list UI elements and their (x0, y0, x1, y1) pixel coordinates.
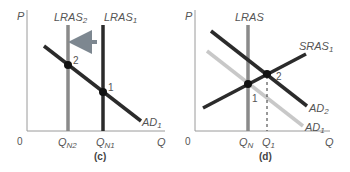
ad1-label: AD1 (141, 116, 162, 130)
diagram-canvas: P 0 Q 2 1 LRAS2 LRAS1 AD1 QN2 QN1 (c) P … (0, 0, 350, 172)
origin-label: 0 (185, 136, 191, 147)
point-label-1: 1 (108, 82, 114, 93)
x-axis-label: Q (157, 136, 166, 148)
x-tick-qn1: QN1 (96, 136, 115, 150)
panel-d: P 0 Q 1 2 LRAS SRAS1 AD2 AD1 QN Q1 (d) (185, 10, 334, 162)
sras1-label: SRAS1 (299, 40, 333, 54)
x-tick-qn2: QN2 (58, 136, 77, 150)
lras1-label: LRAS1 (104, 11, 137, 25)
lras-label: LRAS (235, 11, 264, 23)
equilibrium-point-1 (99, 88, 107, 96)
point-label-2: 2 (276, 71, 282, 82)
equilibrium-point-2 (64, 61, 72, 69)
origin-label: 0 (17, 136, 23, 147)
ad1-curve (44, 46, 141, 121)
equilibrium-point-1 (244, 80, 252, 88)
equilibrium-point-2 (263, 70, 271, 78)
y-axis-label: P (185, 10, 193, 22)
panel-c: P 0 Q 2 1 LRAS2 LRAS1 AD1 QN2 QN1 (c) (17, 10, 166, 162)
point-label-1: 1 (252, 93, 258, 104)
ad2-label: AD2 (308, 102, 329, 116)
panel-caption-c: (c) (94, 151, 106, 162)
x-tick-qn: QN (239, 136, 254, 150)
panel-caption-d: (d) (259, 151, 272, 162)
x-axis-label: Q (325, 136, 334, 148)
x-tick-q1: Q1 (262, 136, 275, 150)
point-label-2: 2 (73, 55, 79, 66)
lras2-label: LRAS2 (54, 11, 88, 25)
ad1-label: AD1 (304, 121, 325, 135)
y-axis-label: P (17, 10, 25, 22)
